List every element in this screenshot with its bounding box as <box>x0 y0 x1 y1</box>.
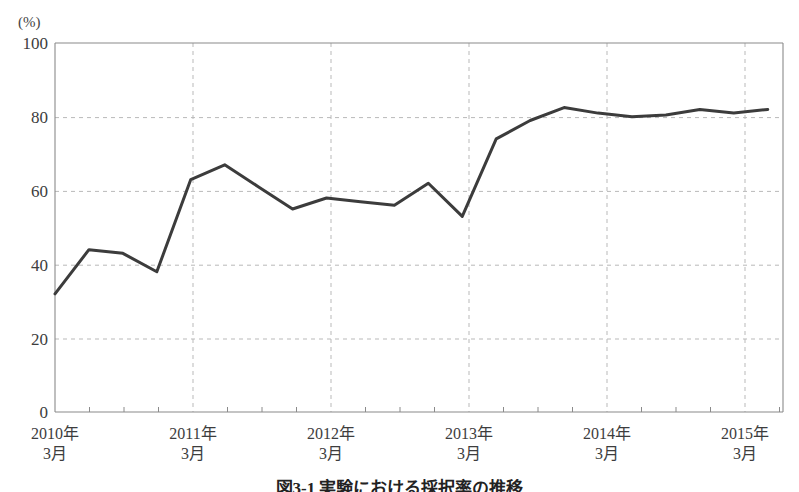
horizontal-gridlines <box>55 118 783 339</box>
x-tick-label-2011: 2011年 3月 <box>169 424 216 464</box>
chart-plot-svg <box>0 0 799 492</box>
plot-frame <box>55 43 783 412</box>
x-tick-label-2012: 2012年 3月 <box>307 424 355 464</box>
x-tick-label-2014: 2014年 3月 <box>583 424 631 464</box>
figure-caption: 図3-1 実験における採択率の推移 <box>0 474 799 492</box>
x-tick-label-2010: 2010年 3月 <box>31 424 79 464</box>
vertical-gridlines <box>193 43 745 412</box>
chart-container: (%) 100 80 60 40 20 0 <box>0 0 799 492</box>
x-tick-label-2015: 2015年 3月 <box>721 424 769 464</box>
data-series-line <box>55 108 768 294</box>
x-tick-label-2013: 2013年 3月 <box>445 424 493 464</box>
